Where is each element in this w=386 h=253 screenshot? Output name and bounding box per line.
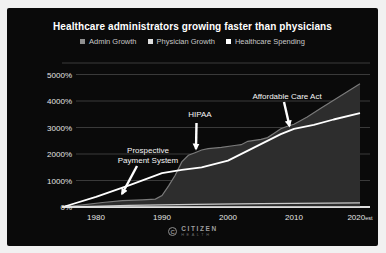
footer-branding: C CITIZEN HEALTH [0,226,386,237]
x-axis-tick: 1990 [153,213,171,222]
annotation: HIPAA [188,110,212,149]
admin-growth-area [63,84,360,207]
x-axis-tick: 2010 [285,213,303,222]
brand-name: CITIZEN [181,226,217,233]
svg-text:Affordable Care Act: Affordable Care Act [252,92,322,101]
svg-text:ProspectivePayment System: ProspectivePayment System [118,146,179,165]
annotation-arrow-icon [284,102,290,126]
y-axis-tick: 5000% [47,71,72,80]
y-axis-tick: 2000% [47,150,72,159]
x-axis-tick: 2020est [347,213,373,222]
growth-chart: 0%1000%2000%3000%4000%5000%1980199020002… [0,0,386,253]
citizen-health-logo-icon: C [168,227,177,236]
x-axis-tick: 2000 [219,213,237,222]
y-axis-tick: 3000% [47,124,72,133]
brand-subtitle: HEALTH [181,234,217,238]
svg-text:HIPAA: HIPAA [188,110,212,119]
y-axis-tick: 1000% [47,177,72,186]
y-axis-tick: 4000% [47,97,72,106]
x-axis-tick: 1980 [87,213,105,222]
annotation-arrow-icon [196,123,197,149]
